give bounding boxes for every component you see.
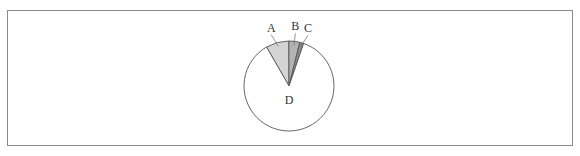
slice-label-c: C (304, 21, 312, 35)
slice-label-a: A (267, 21, 276, 35)
slice-label-b: B (291, 19, 299, 33)
pie-chart: ABCD (0, 0, 580, 156)
pie-slices (244, 41, 334, 131)
slice-label-d: D (285, 93, 294, 107)
